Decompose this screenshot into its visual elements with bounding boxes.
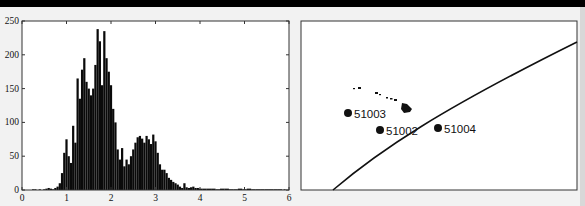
histogram-bar [59, 183, 61, 190]
histogram-bar [92, 89, 94, 190]
map-frame [301, 21, 577, 190]
station-marker-icon [344, 109, 352, 117]
histogram-bar [77, 78, 79, 190]
histogram-bar [134, 143, 136, 190]
histogram-bar [150, 144, 152, 190]
histogram-bar [72, 126, 74, 190]
station-marker-icon [434, 124, 442, 132]
histogram-bar [108, 72, 110, 190]
map-panel: 51003 51002 51004 [301, 21, 577, 190]
histogram-bar [128, 164, 130, 190]
x-tick-label: 1 [64, 193, 69, 203]
x-tick-label: 3 [153, 193, 158, 203]
histogram-bar [81, 70, 83, 190]
station-label: 51003 [354, 108, 386, 120]
y-tick-label: 250 [5, 16, 20, 26]
histogram-bar [168, 178, 170, 190]
histogram-bar [85, 82, 87, 190]
histogram-bar [83, 58, 85, 190]
histogram-bar [99, 41, 101, 190]
histogram-panel: 050100150200250 0123456 [5, 16, 292, 203]
histogram-bar [137, 137, 139, 190]
x-tick-label: 6 [287, 193, 292, 203]
histogram-bar [61, 173, 63, 190]
histogram-bar [183, 183, 185, 190]
histogram-bar [103, 31, 105, 190]
x-tick-label: 4 [198, 193, 203, 203]
histogram-bar [90, 95, 92, 190]
histogram-bar [121, 148, 123, 190]
histogram-bar [132, 149, 134, 190]
histogram-bar [56, 187, 58, 190]
histogram-bar [139, 136, 141, 190]
histogram-bar [170, 180, 172, 190]
histogram-bar [117, 149, 119, 190]
figure-canvas: 050100150200250 0123456 51003 51002 [0, 0, 585, 206]
station-label: 51002 [386, 125, 418, 137]
y-tick-label: 100 [5, 117, 20, 127]
histogram-bar [174, 183, 176, 190]
histogram-bar [74, 143, 76, 190]
histogram-bar [163, 170, 165, 190]
histogram-bar [94, 65, 96, 190]
histogram-bar [79, 99, 81, 190]
histogram-bar [123, 166, 125, 190]
histogram-bar [97, 29, 99, 190]
station-label: 51004 [444, 123, 477, 135]
histogram-bar [152, 135, 154, 190]
histogram-bar [179, 187, 181, 190]
histogram-bar [63, 153, 65, 190]
histogram-bar [110, 85, 112, 190]
y-tick-label: 150 [5, 84, 20, 94]
histogram-bar [159, 164, 161, 190]
histogram-bar [148, 139, 150, 190]
histogram-bar [177, 185, 179, 190]
histogram-bar [65, 139, 67, 190]
station-marker-icon [376, 126, 384, 134]
histogram-bar [68, 156, 70, 190]
histogram-bar [88, 89, 90, 190]
histogram-bar [101, 85, 103, 190]
histogram-bar [130, 156, 132, 190]
y-tick-label: 0 [14, 185, 19, 195]
x-tick-label: 0 [20, 193, 25, 203]
histogram-bar [157, 153, 159, 190]
x-tick-label: 5 [242, 193, 247, 203]
x-tick-label: 2 [109, 193, 114, 203]
histogram-bar [105, 58, 107, 190]
histogram-bar [192, 187, 194, 190]
histogram-bar [141, 139, 143, 190]
y-tick-label: 50 [10, 151, 20, 161]
histogram-bar [166, 173, 168, 190]
histogram-bar [172, 182, 174, 190]
histogram-bar [112, 109, 114, 190]
y-tick-label: 200 [5, 50, 20, 60]
histogram-bar [143, 143, 145, 190]
histogram-bar [119, 160, 121, 190]
histogram-bar [114, 122, 116, 190]
histogram-bar [125, 160, 127, 190]
histogram-bar [70, 163, 72, 190]
histogram-bar [145, 136, 147, 190]
histogram-bar [154, 141, 156, 190]
histogram-bar [161, 170, 163, 190]
